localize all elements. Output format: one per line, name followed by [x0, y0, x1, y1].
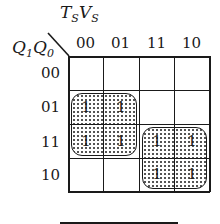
row-header-00: 00 [30, 66, 60, 81]
bottom-rule-line [60, 222, 178, 224]
cell-r1-c1: 1 [104, 100, 138, 115]
col-var-2: V [79, 2, 91, 22]
row-header-01: 01 [30, 100, 60, 115]
row-header-10: 10 [30, 168, 60, 183]
col-var-1: T [60, 2, 71, 22]
cell-r3-c3: 1 [175, 167, 209, 182]
cell-r2-c3: 1 [175, 134, 209, 149]
cell-r2-c1: 1 [104, 134, 138, 149]
col-header-11: 11 [139, 36, 174, 51]
col-var-1-sub: S [71, 12, 79, 25]
col-var-2-sub: S [91, 12, 99, 25]
row-var-1-sub: 1 [26, 47, 33, 60]
cell-r2-c0: 1 [69, 134, 103, 149]
row-header-11: 11 [30, 135, 60, 150]
col-header-10: 10 [174, 36, 209, 51]
cell-r2-c2: 1 [140, 134, 174, 149]
col-header-00: 00 [68, 36, 103, 51]
cell-r1-c0: 1 [69, 100, 103, 115]
col-header-01: 01 [103, 36, 138, 51]
cell-r3-c2: 1 [140, 167, 174, 182]
column-variable-label: TSVS [60, 4, 99, 23]
row-var-1: Q [12, 37, 26, 57]
